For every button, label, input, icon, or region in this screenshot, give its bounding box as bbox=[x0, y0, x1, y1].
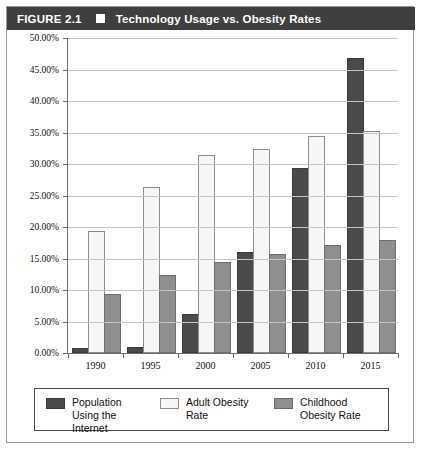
bar-2010-series2[interactable] bbox=[324, 245, 341, 353]
legend-label: Population Using the Internet bbox=[72, 396, 144, 435]
legend-swatch-icon bbox=[274, 398, 293, 409]
y-tick-label: 0.00% bbox=[34, 348, 59, 358]
y-tick-label: 45.00% bbox=[30, 65, 59, 75]
plot-region: 199019952000200520102015 bbox=[65, 30, 397, 382]
y-tick-mark bbox=[63, 164, 68, 165]
bar-2015-series0[interactable] bbox=[347, 58, 364, 353]
x-tick-mark bbox=[68, 353, 69, 358]
y-tick-label: 40.00% bbox=[30, 96, 59, 106]
y-tick-label: 30.00% bbox=[30, 159, 59, 169]
y-tick-mark bbox=[63, 290, 68, 291]
y-tick-label: 10.00% bbox=[30, 285, 59, 295]
bar-1995-series2[interactable] bbox=[159, 275, 176, 353]
y-tick-label: 50.00% bbox=[30, 33, 59, 43]
chart-legend: Population Using the InternetAdult Obesi… bbox=[34, 388, 389, 431]
y-tick-label: 5.00% bbox=[34, 317, 59, 327]
legend-swatch-icon bbox=[160, 398, 179, 409]
bar-2005-series2[interactable] bbox=[269, 254, 286, 353]
plot-inner: 199019952000200520102015 bbox=[67, 38, 398, 354]
y-tick-mark bbox=[63, 227, 68, 228]
filled-square-icon bbox=[96, 14, 105, 23]
gridline bbox=[68, 70, 398, 71]
gridline bbox=[68, 101, 398, 102]
chart-area: 0.00%5.00%10.00%15.00%20.00%25.00%30.00%… bbox=[7, 30, 415, 382]
x-tick-mark bbox=[343, 353, 344, 358]
legend-swatch-icon bbox=[46, 398, 65, 409]
x-tick-mark bbox=[288, 353, 289, 358]
gridline bbox=[68, 227, 398, 228]
x-tick-mark bbox=[398, 353, 399, 358]
bar-1990-series2[interactable] bbox=[104, 294, 121, 353]
bar-2005-series0[interactable] bbox=[237, 252, 254, 353]
x-tick-mark bbox=[178, 353, 179, 358]
gridline bbox=[68, 133, 398, 134]
x-tick-mark bbox=[123, 353, 124, 358]
bar-2010-series1[interactable] bbox=[308, 136, 325, 353]
y-tick-mark bbox=[63, 322, 68, 323]
legend-label: Childhood Obesity Rate bbox=[300, 396, 372, 422]
y-axis: 0.00%5.00%10.00%15.00%20.00%25.00%30.00%… bbox=[7, 30, 62, 382]
figure-number: FIGURE 2.1 bbox=[17, 13, 82, 25]
y-tick-label: 25.00% bbox=[30, 191, 59, 201]
y-tick-mark bbox=[63, 133, 68, 134]
gridline bbox=[68, 38, 398, 39]
x-tick-label-2005: 2005 bbox=[251, 360, 271, 371]
y-tick-mark bbox=[63, 70, 68, 71]
x-tick-label-2010: 2010 bbox=[306, 360, 326, 371]
gridline bbox=[68, 322, 398, 323]
x-tick-label-2015: 2015 bbox=[361, 360, 381, 371]
gridline bbox=[68, 196, 398, 197]
y-tick-mark bbox=[63, 259, 68, 260]
bar-2015-series2[interactable] bbox=[379, 240, 396, 353]
y-tick-mark bbox=[63, 101, 68, 102]
figure-frame: FIGURE 2.1 Technology Usage vs. Obesity … bbox=[6, 6, 414, 443]
legend-entry-2[interactable]: Childhood Obesity Rate bbox=[274, 396, 372, 422]
y-tick-label: 15.00% bbox=[30, 254, 59, 264]
gridline bbox=[68, 290, 398, 291]
bar-1995-series1[interactable] bbox=[143, 187, 160, 353]
x-tick-label-1990: 1990 bbox=[86, 360, 106, 371]
x-tick-label-2000: 2000 bbox=[196, 360, 216, 371]
gridline bbox=[68, 259, 398, 260]
y-tick-label: 35.00% bbox=[30, 128, 59, 138]
legend-entry-0[interactable]: Population Using the Internet bbox=[46, 396, 144, 435]
figure-title: Technology Usage vs. Obesity Rates bbox=[116, 13, 322, 25]
y-tick-label: 20.00% bbox=[30, 222, 59, 232]
bar-2000-series2[interactable] bbox=[214, 262, 231, 353]
bar-2000-series1[interactable] bbox=[198, 155, 215, 353]
gridline bbox=[68, 164, 398, 165]
bar-1990-series1[interactable] bbox=[88, 231, 105, 353]
y-tick-mark bbox=[63, 38, 68, 39]
figure-header: FIGURE 2.1 Technology Usage vs. Obesity … bbox=[7, 7, 415, 30]
x-tick-label-1995: 1995 bbox=[141, 360, 161, 371]
y-tick-mark bbox=[63, 196, 68, 197]
legend-label: Adult Obesity Rate bbox=[186, 396, 258, 422]
bar-2000-series0[interactable] bbox=[182, 314, 199, 353]
legend-entry-1[interactable]: Adult Obesity Rate bbox=[160, 396, 258, 422]
x-tick-mark bbox=[233, 353, 234, 358]
